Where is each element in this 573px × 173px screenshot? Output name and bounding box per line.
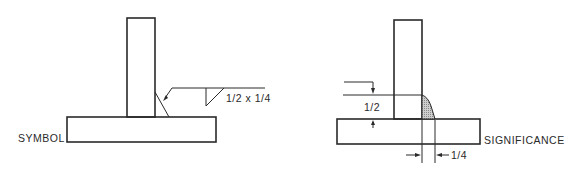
fillet-weld-symbol-icon xyxy=(206,88,224,106)
weld-size-label: 1/2 x 1/4 xyxy=(226,92,271,104)
arrow-right-icon xyxy=(415,153,421,157)
arrow-down-icon xyxy=(371,88,375,94)
arrowhead-icon xyxy=(163,95,168,101)
base-plate xyxy=(67,117,216,142)
fillet-weld-shaded xyxy=(422,95,435,119)
vertical-plate xyxy=(394,20,422,119)
significance-caption: SIGNIFICANCE xyxy=(484,134,565,146)
symbol-caption: SYMBOL xyxy=(18,132,65,144)
horizontal-leg-label: 1/4 xyxy=(451,149,467,161)
symbol-view: 1/2 x 1/4 SYMBOL xyxy=(18,18,271,144)
arrow-left-icon xyxy=(436,153,442,157)
arrow-up-icon xyxy=(371,120,375,125)
vertical-leg-label: 1/2 xyxy=(364,101,380,113)
vertical-plate xyxy=(127,18,155,117)
significance-view: 1/2 1/4 SIGNIFICANCE xyxy=(337,20,565,163)
weld-diagram: 1/2 x 1/4 SYMBOL 1/2 1/4 SIGNIFICANCE xyxy=(0,0,573,173)
base-plate xyxy=(337,119,480,144)
